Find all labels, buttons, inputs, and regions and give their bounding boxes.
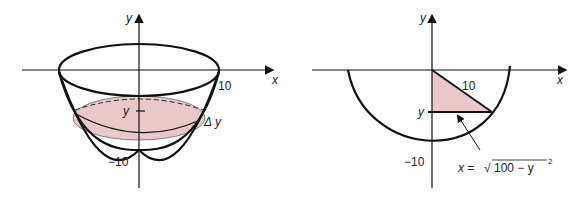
equation: x = √ 100 − y 2 xyxy=(457,157,553,175)
label-neg10: −10 xyxy=(108,155,129,169)
right-figure: y x 10 −10 y x = √ 100 − y 2 xyxy=(312,11,565,188)
circle-arc xyxy=(348,66,510,141)
label-y: y xyxy=(122,104,130,118)
svg-text:x =: x = xyxy=(457,161,474,175)
svg-text:√: √ xyxy=(484,161,491,175)
svg-text:100 − y: 100 − y xyxy=(494,161,534,175)
label-10: 10 xyxy=(462,79,476,93)
y-axis-label: y xyxy=(125,11,133,25)
diagram-canvas: y x 10 −10 y Δ y y x 10 −10 y x = √ 100 … xyxy=(0,0,585,204)
pointer-arrow xyxy=(458,116,480,150)
y-axis-label: y xyxy=(419,11,427,25)
x-axis-label: x xyxy=(271,73,279,87)
left-figure: y x 10 −10 y Δ y xyxy=(22,11,279,188)
label-y: y xyxy=(417,105,425,119)
label-10: 10 xyxy=(218,79,232,93)
x-axis-label: x xyxy=(556,73,564,87)
svg-text:2: 2 xyxy=(548,157,553,166)
label-delta-y: Δ y xyxy=(203,115,222,129)
label-neg10: −10 xyxy=(404,155,425,169)
